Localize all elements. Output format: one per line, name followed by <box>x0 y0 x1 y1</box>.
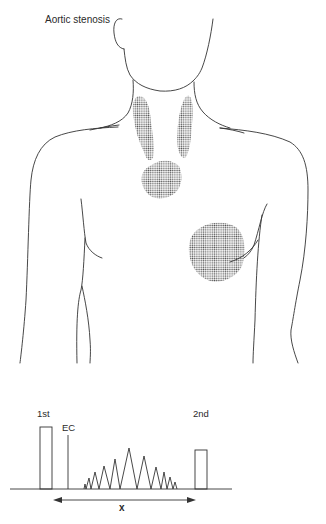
first-sound-label: 1st <box>37 408 50 419</box>
second-heart-sound-bar <box>195 450 207 489</box>
figure-title: Aortic stenosis <box>45 14 110 25</box>
neck-left-outline <box>100 80 133 128</box>
apex-area-stipple <box>189 223 245 282</box>
left-neck-stipple <box>177 96 193 158</box>
head-right-outline <box>193 19 213 81</box>
first-heart-sound-bar <box>40 427 52 489</box>
face-left-outline <box>124 49 193 91</box>
aortic-area-stipple <box>141 161 181 199</box>
ear-outline <box>114 19 124 49</box>
systolic-ejection-murmur <box>84 448 177 489</box>
murmur-radiation-areas <box>133 96 258 282</box>
left-shoulder-outline <box>20 127 118 363</box>
phonocardiogram: 1st EC 2nd x <box>10 408 232 513</box>
left-flank-line-2 <box>82 286 90 363</box>
second-sound-label: 2nd <box>193 408 209 419</box>
right-flank-line <box>253 215 262 363</box>
interval-label: x <box>119 502 125 513</box>
left-flank-line <box>77 238 85 363</box>
aortic-stenosis-figure: Aortic stenosis <box>0 0 326 524</box>
neck-right-outline <box>194 82 230 128</box>
ejection-click-label: EC <box>62 422 75 433</box>
right-neck-stipple <box>133 96 154 160</box>
